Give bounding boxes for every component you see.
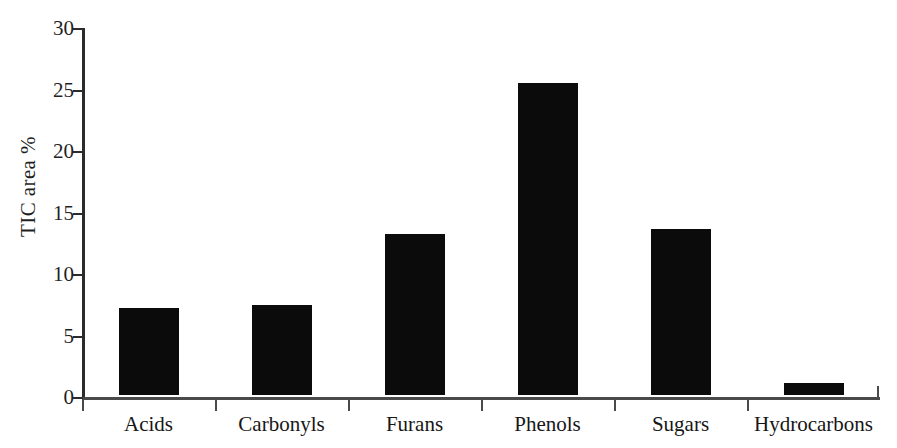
- x-axis-category-label: Phenols: [514, 412, 581, 437]
- x-axis-category-label: Hydrocarbons: [754, 412, 873, 437]
- bar: [784, 383, 844, 395]
- x-axis-category-label: Sugars: [652, 412, 709, 437]
- y-axis-tick-label: 30: [53, 18, 74, 39]
- y-axis-tick-label: 15: [53, 202, 74, 223]
- x-axis-tick: [481, 400, 483, 411]
- y-axis-tick-label: 0: [64, 387, 75, 408]
- y-axis-tick: [73, 397, 83, 399]
- y-axis-tick-label: 20: [53, 141, 74, 162]
- y-axis-tick-label: 5: [64, 325, 75, 346]
- y-axis-tick-label: 25: [53, 79, 74, 100]
- bar-chart: TIC area % 051015202530 AcidsCarbonylsFu…: [0, 0, 897, 448]
- x-axis-tick: [747, 400, 749, 411]
- x-axis-category-label: Acids: [124, 412, 173, 437]
- y-axis-label: TIC area %: [16, 97, 41, 277]
- y-axis-tick: [73, 90, 83, 92]
- y-axis-tick: [73, 274, 83, 276]
- x-axis-tick: [215, 400, 217, 411]
- bar: [651, 229, 711, 395]
- y-axis-tick: [73, 28, 83, 30]
- y-axis-tick: [73, 336, 83, 338]
- x-axis-tick: [614, 400, 616, 411]
- bar: [119, 308, 179, 395]
- bar: [252, 305, 312, 395]
- plot-area: 051015202530 AcidsCarbonylsFuransPhenols…: [82, 28, 880, 398]
- y-axis-tick-label: 10: [53, 264, 74, 285]
- x-axis-category-label: Carbonyls: [238, 412, 324, 437]
- x-axis-tick: [348, 400, 350, 411]
- x-axis-category-label: Furans: [386, 412, 443, 437]
- bar: [518, 83, 578, 395]
- x-axis-end-tick: [877, 386, 879, 399]
- y-axis-tick: [73, 213, 83, 215]
- bar: [385, 234, 445, 395]
- x-axis-origin-tick: [82, 400, 84, 411]
- y-axis-tick: [73, 151, 83, 153]
